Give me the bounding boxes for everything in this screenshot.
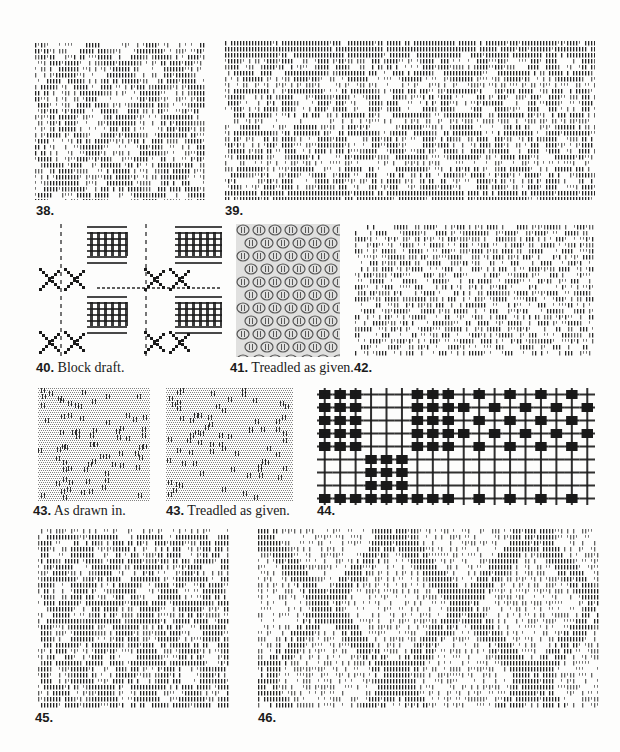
figure-number: 46. [258, 710, 276, 725]
figure-39-pattern [225, 40, 595, 200]
figure-number: 42. [354, 360, 372, 375]
caption-39: 39. [225, 203, 243, 219]
caption-42: 42. [354, 360, 372, 376]
caption-43-treadled: 43. Treadled as given. [166, 503, 290, 519]
figure-43-treadled-as-given [166, 388, 293, 502]
figure-number: 41. [230, 360, 248, 375]
figure-45-pattern [38, 528, 230, 708]
caption-44: 44. [317, 503, 335, 519]
figure-42-pattern [355, 224, 595, 357]
figure-38-pattern [35, 42, 205, 200]
figure-number: 43. [33, 503, 51, 518]
figure-43-as-drawn-in [38, 388, 150, 502]
caption-38: 38. [36, 203, 54, 219]
caption-41: 41. Treadled as given. [230, 360, 354, 376]
figure-number: 39. [225, 203, 243, 218]
caption-40: 40. Block draft. [36, 360, 124, 376]
figure-44-pattern [317, 388, 595, 505]
figure-40-block-draft [35, 224, 222, 357]
figure-number: 40. [36, 360, 54, 375]
figure-46-pattern [258, 528, 600, 708]
caption-45: 45. [35, 710, 53, 726]
figure-number: 45. [35, 710, 53, 725]
figure-number: 43. [166, 503, 184, 518]
caption-43-as-drawn: 43. As drawn in. [33, 503, 126, 519]
figure-number: 38. [36, 203, 54, 218]
figure-41-pattern [236, 224, 340, 357]
figure-number: 44. [317, 503, 335, 518]
caption-46: 46. [258, 710, 276, 726]
